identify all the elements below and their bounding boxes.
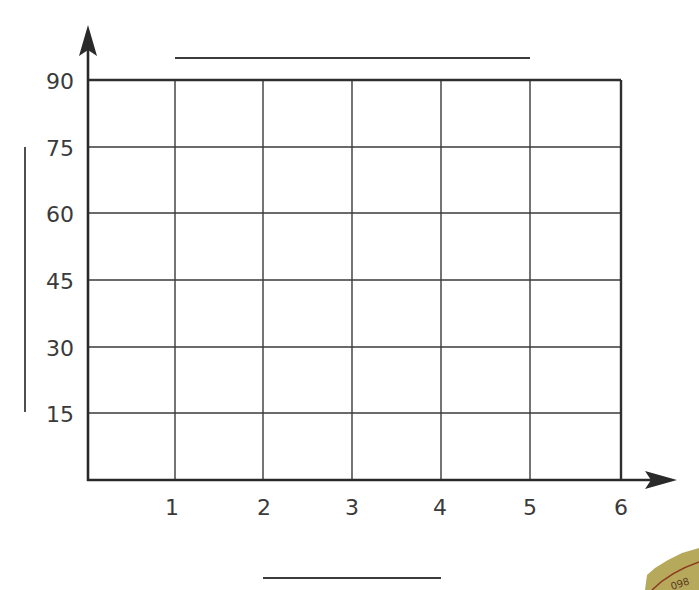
y-tick-label: 30: [46, 336, 74, 361]
y-tick-label: 90: [46, 69, 74, 94]
horizontal-gridlines: [88, 147, 621, 413]
x-tick-label: 4: [433, 495, 447, 520]
y-tick-label: 60: [46, 202, 74, 227]
x-tick-label: 1: [165, 495, 179, 520]
x-tick-label: 5: [523, 495, 537, 520]
y-tick-label: 45: [46, 269, 74, 294]
y-tick-label: 75: [46, 136, 74, 161]
x-tick-label: 2: [257, 495, 271, 520]
ticket-stamp-icon: 098: [645, 548, 699, 590]
x-tick-labels: 1 2 3 4 5 6: [165, 495, 628, 520]
blank-grid-chart: 90 75 60 45 30 15 1 2 3 4 5 6 098: [0, 0, 699, 590]
y-tick-label: 15: [46, 402, 74, 427]
x-tick-label: 6: [614, 495, 628, 520]
y-tick-labels: 90 75 60 45 30 15: [46, 69, 74, 427]
x-tick-label: 3: [345, 495, 359, 520]
